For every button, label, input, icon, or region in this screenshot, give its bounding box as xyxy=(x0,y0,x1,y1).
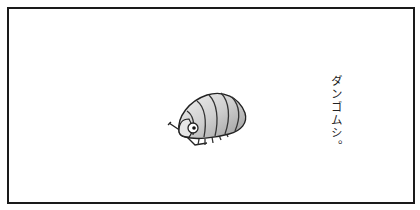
pill-bug-icon xyxy=(167,87,249,149)
comic-panel: ダンゴムシ。 xyxy=(7,7,415,204)
caption-text: ダンゴムシ。 xyxy=(329,75,341,153)
